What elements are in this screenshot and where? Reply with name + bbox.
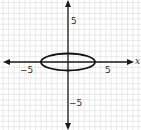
- x-axis-left-arrow-icon: [3, 59, 10, 65]
- x-tick-label-neg5: −5: [20, 65, 33, 75]
- coordinate-plane: x −5 5 5 −5: [0, 0, 141, 130]
- x-tick-label-5: 5: [105, 65, 111, 75]
- x-axis-label: x: [135, 56, 140, 66]
- y-tick-label-neg5: −5: [69, 98, 82, 108]
- y-tick-label-5: 5: [71, 16, 77, 26]
- y-axis-up-arrow-icon: [65, 0, 71, 7]
